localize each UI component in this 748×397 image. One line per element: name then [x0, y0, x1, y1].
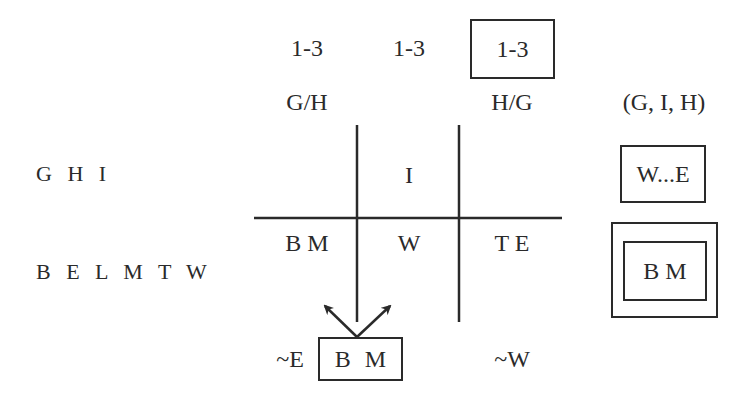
bottom-right-constraint: ~W: [494, 347, 530, 371]
cell-top-middle: I: [405, 163, 413, 187]
bottom-group-label: B M: [335, 347, 386, 371]
cell-bottom-left: B M: [285, 231, 328, 255]
summary-row1-box: W...E: [620, 145, 706, 203]
arrow-up-left: [325, 306, 357, 337]
summary-row1-label: W...E: [636, 162, 689, 186]
cell-bottom-right: T E: [495, 231, 530, 255]
bottom-left-constraint: ~E: [276, 347, 304, 371]
cell-bottom-middle: W: [398, 231, 421, 255]
summary-row2-inner-box: B M: [623, 241, 707, 301]
summary-row2-label: B M: [643, 259, 686, 283]
bottom-group-box: B M: [318, 337, 403, 381]
arrow-up-right: [357, 306, 390, 337]
